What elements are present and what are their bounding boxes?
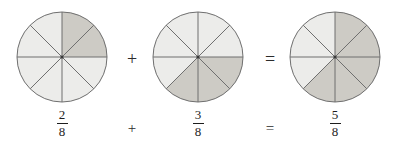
pie-circles-row: + =	[0, 0, 404, 108]
pie-center-dot	[333, 55, 336, 58]
pie-center-dot	[196, 55, 199, 58]
fraction-first-denominator: 8	[57, 125, 68, 139]
plus-operator-circles: +	[118, 45, 146, 73]
fraction-result: 5 8	[289, 108, 381, 140]
equals-operator-circles: =	[256, 45, 284, 73]
pie-chart-addend-2	[152, 11, 244, 103]
fraction-result-numerator: 5	[330, 108, 341, 122]
pie-chart-sum	[289, 11, 381, 103]
pie-center-dot	[60, 55, 63, 58]
fraction-addition-figure: + = 2 8 3 8 5 8 + =	[0, 0, 404, 144]
fraction-first: 2 8	[16, 108, 108, 140]
equals-operator-fractions: =	[256, 118, 284, 138]
fraction-second: 3 8	[152, 108, 244, 140]
pie-chart-addend-1	[16, 11, 108, 103]
fraction-second-numerator: 3	[193, 108, 204, 122]
fraction-result-denominator: 8	[330, 125, 341, 139]
fraction-first-numerator: 2	[57, 108, 68, 122]
fractions-row: 2 8 3 8 5 8 + =	[0, 106, 404, 144]
plus-operator-fractions: +	[118, 118, 146, 138]
fraction-second-denominator: 8	[193, 125, 204, 139]
